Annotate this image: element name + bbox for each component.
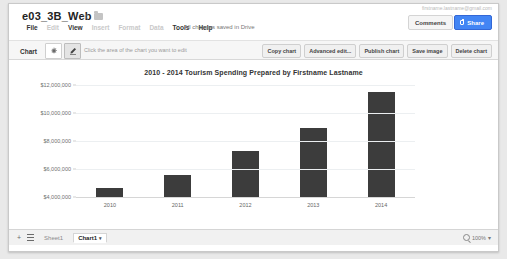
bar[interactable]: [368, 92, 395, 197]
zoom-level: 100%: [472, 235, 486, 241]
chart-plot-area: 20102011201220132014 $12,000,000$10,000,…: [76, 85, 415, 197]
chart-edit-hint: Click the area of the chart you want to …: [84, 47, 187, 53]
bar[interactable]: [300, 128, 327, 197]
zoom-control[interactable]: 100% ▾: [463, 230, 491, 245]
sheet-tab-sheet1[interactable]: Sheet1: [40, 234, 67, 242]
menu-view[interactable]: View: [63, 24, 87, 31]
menu-format[interactable]: Format: [114, 24, 145, 31]
save-status: All changes saved in Drive: [184, 24, 255, 30]
y-axis-label: $6,000,000: [43, 166, 71, 172]
x-axis-label: 2014: [347, 202, 415, 208]
gridline: [76, 113, 415, 114]
pencil-icon[interactable]: [64, 43, 81, 59]
bar[interactable]: [164, 175, 191, 197]
y-tick-mark: [73, 141, 76, 142]
gear-icon[interactable]: [45, 43, 62, 59]
chart-action-buttons: Copy chart Advanced edit... Publish char…: [262, 44, 492, 58]
account-email: firstname.lastname@gmail.com: [422, 5, 492, 11]
gridline: [76, 169, 415, 170]
bar[interactable]: [232, 151, 259, 197]
gridline: [76, 141, 415, 142]
chart-tool-group: [45, 43, 83, 59]
menu-insert[interactable]: Insert: [87, 24, 114, 31]
chart-toolbar: Chart Click the area of the chart you wa…: [9, 40, 498, 60]
menu-file[interactable]: File: [22, 24, 42, 31]
save-image-button[interactable]: Save image: [407, 44, 447, 58]
chart-canvas: 2010 - 2014 Tourism Spending Prepared by…: [9, 60, 498, 229]
delete-chart-button[interactable]: Delete chart: [451, 44, 493, 58]
x-axis-label: 2012: [212, 202, 280, 208]
chevron-down-icon[interactable]: ▾: [99, 235, 102, 241]
chart-toolbar-label: Chart: [20, 48, 37, 55]
y-axis-label: $10,000,000: [40, 110, 71, 116]
publish-chart-button[interactable]: Publish chart: [359, 44, 404, 58]
y-tick-mark: [73, 113, 76, 114]
sheet-tab-chart1-label: Chart1: [78, 235, 97, 241]
x-axis-label: 2010: [76, 202, 144, 208]
x-axis-label: 2011: [144, 202, 212, 208]
y-axis-label: $12,000,000: [40, 82, 71, 88]
sheet-bar-left: + Sheet1 Chart1▾: [17, 230, 107, 245]
share-button[interactable]: Share: [454, 15, 492, 30]
sheet-tab-chart1[interactable]: Chart1▾: [73, 233, 107, 243]
y-axis-label: $4,000,000: [43, 194, 71, 200]
lock-icon: [460, 20, 464, 25]
advanced-edit-button[interactable]: Advanced edit...: [304, 44, 356, 58]
plus-icon[interactable]: +: [17, 234, 21, 241]
hamburger-icon[interactable]: [27, 234, 34, 241]
sheet-bar: + Sheet1 Chart1▾ 100% ▾: [9, 229, 498, 245]
bar[interactable]: [96, 188, 123, 197]
y-tick-mark: [73, 197, 76, 198]
menu-data[interactable]: Data: [145, 24, 168, 31]
chart-area[interactable]: 2010 - 2014 Tourism Spending Prepared by…: [14, 62, 493, 225]
star-icon[interactable]: ☆: [82, 13, 90, 21]
gridline: [76, 85, 415, 86]
comments-button[interactable]: Comments: [408, 15, 453, 30]
y-tick-mark: [73, 169, 76, 170]
share-button-label: Share: [467, 20, 484, 26]
zoom-chevron-icon: ▾: [488, 235, 491, 241]
menu-edit[interactable]: Edit: [42, 24, 63, 31]
y-axis-label: $8,000,000: [43, 138, 71, 144]
screen: e03_3B_Web ☆ File Edit View Insert Forma…: [0, 0, 507, 259]
y-tick-mark: [73, 85, 76, 86]
gridline: [76, 197, 415, 198]
magnifier-icon: [463, 234, 470, 241]
copy-chart-button[interactable]: Copy chart: [262, 44, 301, 58]
folder-icon[interactable]: [94, 13, 103, 20]
app-header: e03_3B_Web ☆ File Edit View Insert Forma…: [9, 4, 498, 40]
spreadsheet-window: e03_3B_Web ☆ File Edit View Insert Forma…: [8, 3, 499, 252]
x-axis-label: 2013: [279, 202, 347, 208]
chart-title: 2010 - 2014 Tourism Spending Prepared by…: [14, 69, 493, 76]
